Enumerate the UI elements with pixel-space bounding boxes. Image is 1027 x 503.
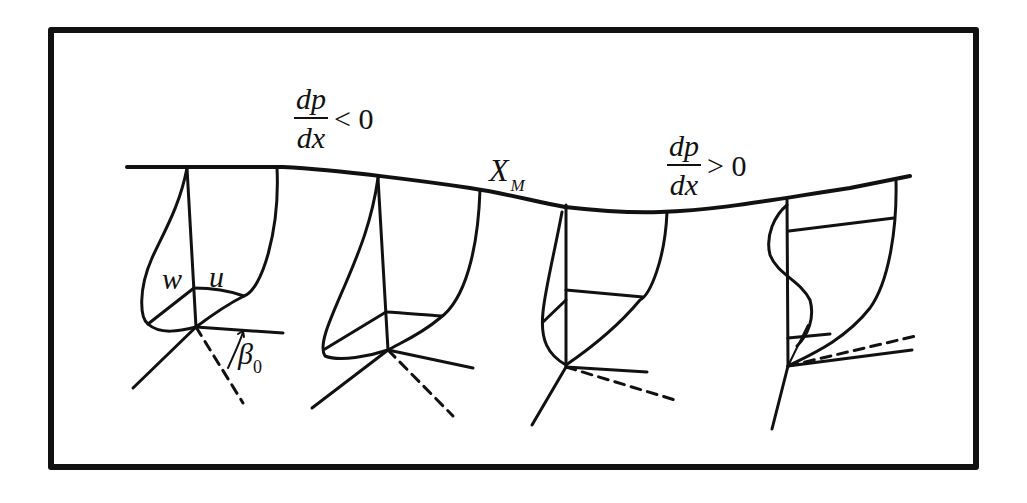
minimum-point-subscript: M [511,176,525,195]
streamwise-u-label: u [209,260,224,294]
fraction-bar [667,164,701,166]
gradient-denominator: dx [295,123,327,153]
wall-angle-main: β [238,337,253,370]
adverse-gradient-label: dp dx > 0 [667,131,746,200]
crossflow-w-label: w [162,262,182,296]
figure-frame [51,30,976,467]
profile-station-3 [532,205,675,425]
boundary-layer-diagram: dp dx < 0 dp dx > 0 XM w u β0 [0,0,1027,503]
minimum-point-main: X [489,152,509,188]
wall-angle-label: β0 [238,337,262,371]
gradient-relation: > 0 [707,149,746,183]
fraction-bar [294,117,328,119]
profile-station-2 [312,178,480,416]
gradient-numerator: dp [294,84,328,114]
wall-angle-subscript: 0 [253,357,262,377]
favorable-gradient-label: dp dx < 0 [294,84,373,153]
gradient-relation: < 0 [334,102,373,136]
profile-station-4 [769,181,920,429]
diagram-drawing [0,0,1027,503]
gradient-denominator: dx [668,170,700,200]
minimum-point-label: XM [489,152,525,189]
gradient-numerator: dp [667,131,701,161]
